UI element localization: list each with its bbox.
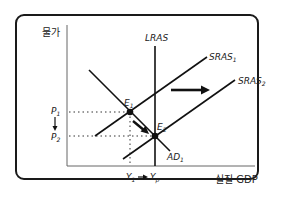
p1-label: P1 <box>51 106 60 117</box>
e2-point <box>152 133 159 140</box>
e2-label: E2 <box>157 122 167 133</box>
sras2-label: SRAS2 <box>238 76 266 87</box>
as-ad-diagram: 물가 실질 GDP LRAS SRAS1 SRAS2 AD1 E1 E2 P1 … <box>0 0 291 203</box>
sras1-curve <box>95 57 207 136</box>
price-down-arrow-head <box>53 126 58 131</box>
sras2-curve <box>123 80 235 159</box>
shift-arrow-head <box>201 86 210 95</box>
e1-point <box>127 109 134 116</box>
ad1-label: AD1 <box>166 152 184 163</box>
p2-label: P2 <box>51 132 60 143</box>
sras1-label: SRAS1 <box>209 52 237 63</box>
lras-label: LRAS <box>145 33 168 43</box>
e1-label: E1 <box>124 98 134 109</box>
y-axis-label: 물가 <box>42 27 60 38</box>
x-axis-label: 실질 GDP <box>215 174 258 185</box>
yp-label: Yp <box>150 172 160 184</box>
output-arrow-head <box>143 175 148 180</box>
y1-label: Y1 <box>126 172 135 183</box>
